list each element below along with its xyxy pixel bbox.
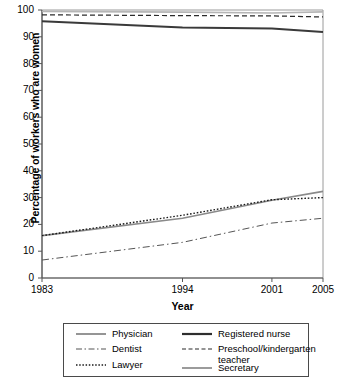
legend-item[interactable]: Secretary (182, 362, 259, 374)
legend-item[interactable]: Lawyer (76, 359, 143, 371)
series-line-preschool-kindergarten-teacher (42, 15, 323, 17)
y-tick-label: 100 (8, 5, 34, 15)
x-axis-title: Year (42, 296, 323, 314)
legend-line-swatch (182, 343, 212, 355)
x-tick-label: 2005 (303, 285, 337, 295)
y-tick-label: 80 (8, 59, 34, 69)
legend-label: Physician (112, 328, 153, 339)
series-line-dentist (42, 218, 323, 260)
series-line-physician (42, 191, 323, 235)
chart-container: Percentage of workers who are women Year… (0, 0, 337, 387)
x-tick-label: 2001 (252, 285, 292, 295)
y-tick-label: 50 (8, 139, 34, 149)
y-tick-label: 20 (8, 219, 34, 229)
y-tick-label: 10 (8, 246, 34, 256)
legend-label: Dentist (112, 343, 142, 354)
x-tick-label: 1983 (22, 285, 62, 295)
legend-line-swatch (76, 359, 106, 371)
legend-label: Secretary (218, 362, 259, 373)
legend-label: Registered nurse (218, 328, 290, 339)
legend-item[interactable]: Physician (76, 328, 153, 340)
legend-line-swatch (182, 328, 212, 340)
legend-line-swatch (182, 362, 212, 374)
line-chart-plot (0, 0, 337, 315)
series-line-registered-nurse (42, 21, 323, 32)
y-tick-label: 30 (8, 193, 34, 203)
y-tick-label: 60 (8, 112, 34, 122)
series-line-secretary (42, 11, 323, 13)
legend-label: Lawyer (112, 359, 143, 370)
y-tick-label: 90 (8, 32, 34, 42)
legend-item[interactable]: Dentist (76, 343, 142, 355)
y-tick-label: 0 (8, 273, 34, 283)
y-tick-label: 70 (8, 85, 34, 95)
legend-line-swatch (76, 328, 106, 340)
chart-legend: PhysicianRegistered nurseDentistPreschoo… (63, 323, 309, 377)
y-tick-label: 40 (8, 166, 34, 176)
x-axis-title-text: Year (171, 300, 193, 312)
legend-item[interactable]: Registered nurse (182, 328, 290, 340)
legend-line-swatch (76, 343, 106, 355)
x-tick-label: 1994 (163, 285, 203, 295)
plot-frame (42, 10, 323, 278)
